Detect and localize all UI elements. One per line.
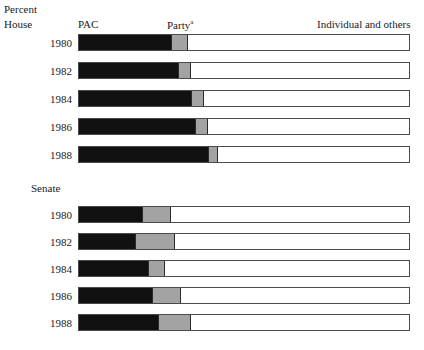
- bar-row: 1988: [0, 146, 424, 164]
- bar-year-label: 1982: [30, 64, 72, 78]
- senate-group-label: Senate: [31, 182, 60, 194]
- bar-segment-party: [148, 261, 165, 276]
- bar-year-label: 1986: [30, 120, 72, 134]
- bar-track: [78, 287, 410, 304]
- bar-row: 1984: [0, 260, 424, 278]
- legend-label-party-text: Party: [167, 19, 190, 31]
- bar-year-label: 1980: [30, 208, 72, 222]
- legend-label-pac: PAC: [78, 18, 98, 30]
- legend-label-individual: Individual and others: [317, 18, 410, 30]
- stacked-bar-chart: Percent House PAC Partya Individual and …: [0, 0, 424, 350]
- bar-year-label: 1982: [30, 235, 72, 249]
- bar-segment-individual: [181, 288, 409, 303]
- bar-segment-party: [152, 288, 182, 303]
- bar-track: [78, 34, 410, 51]
- bar-segment-pac: [79, 35, 171, 50]
- party-footnote-marker: a: [190, 18, 193, 26]
- bar-segment-party: [135, 234, 175, 249]
- bar-row: 1982: [0, 62, 424, 80]
- bar-segment-pac: [79, 234, 135, 249]
- legend-label-party: Partya: [167, 18, 193, 31]
- bar-segment-party: [171, 35, 188, 50]
- bar-year-label: 1988: [30, 316, 72, 330]
- bar-row: 1980: [0, 206, 424, 224]
- bar-segment-pac: [79, 147, 208, 162]
- bar-track: [78, 260, 410, 277]
- bar-segment-pac: [79, 63, 178, 78]
- bar-segment-pac: [79, 119, 195, 134]
- bar-year-label: 1984: [30, 262, 72, 276]
- bar-row: 1984: [0, 90, 424, 108]
- bar-row: 1988: [0, 314, 424, 332]
- bar-segment-pac: [79, 261, 148, 276]
- bar-segment-individual: [188, 35, 409, 50]
- bar-segment-party: [208, 147, 218, 162]
- bar-segment-pac: [79, 288, 152, 303]
- bar-segment-pac: [79, 315, 158, 330]
- bar-segment-party: [158, 315, 191, 330]
- bar-track: [78, 146, 410, 163]
- bar-row: 1980: [0, 34, 424, 52]
- bar-segment-party: [195, 119, 208, 134]
- bar-segment-individual: [171, 207, 409, 222]
- bar-segment-pac: [79, 91, 191, 106]
- bar-segment-party: [178, 63, 191, 78]
- bar-year-label: 1988: [30, 148, 72, 162]
- bar-segment-individual: [204, 91, 409, 106]
- bar-segment-party: [191, 91, 204, 106]
- bar-segment-individual: [208, 119, 409, 134]
- percent-axis-label: Percent: [4, 3, 37, 15]
- bar-track: [78, 118, 410, 135]
- bar-year-label: 1984: [30, 92, 72, 106]
- bar-track: [78, 206, 410, 223]
- bar-segment-individual: [218, 147, 409, 162]
- bar-segment-individual: [175, 234, 409, 249]
- bar-row: 1986: [0, 118, 424, 136]
- bar-year-label: 1986: [30, 289, 72, 303]
- bar-track: [78, 90, 410, 107]
- house-group-label: House: [4, 18, 32, 30]
- bar-segment-pac: [79, 207, 142, 222]
- bar-row: 1982: [0, 233, 424, 251]
- bar-segment-individual: [191, 315, 409, 330]
- bar-track: [78, 314, 410, 331]
- bar-year-label: 1980: [30, 36, 72, 50]
- bar-segment-individual: [191, 63, 409, 78]
- bar-track: [78, 62, 410, 79]
- bar-row: 1986: [0, 287, 424, 305]
- bar-track: [78, 233, 410, 250]
- bar-segment-individual: [165, 261, 409, 276]
- bar-segment-party: [142, 207, 172, 222]
